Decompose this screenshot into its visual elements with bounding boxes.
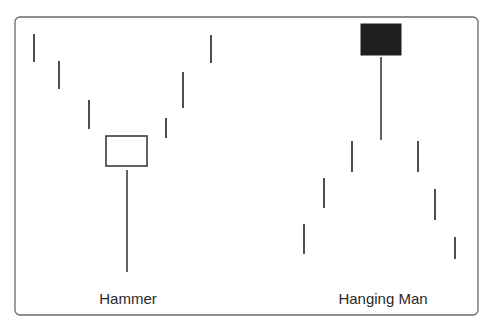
patterns-layer: [34, 24, 455, 272]
hanging-man-pattern: [304, 24, 455, 259]
hanging-man-candle-body: [361, 24, 401, 55]
hammer-pattern: [34, 34, 211, 272]
diagram-frame: [15, 17, 478, 315]
hanging-man-label: Hanging Man: [338, 290, 427, 307]
candlestick-diagram: [0, 0, 492, 333]
hammer-candle-body: [106, 136, 147, 166]
hammer-label: Hammer: [99, 290, 157, 307]
